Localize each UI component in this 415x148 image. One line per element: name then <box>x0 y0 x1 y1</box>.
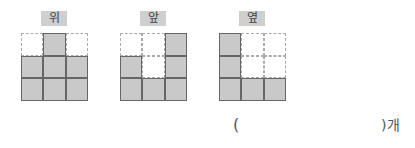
top-view-grid <box>21 33 88 101</box>
filled-cell <box>165 78 187 101</box>
empty-cell <box>66 33 88 56</box>
filled-cell <box>120 78 142 101</box>
empty-cell <box>120 33 142 56</box>
empty-cell <box>264 56 286 79</box>
filled-cell <box>43 56 65 79</box>
open-paren: ( <box>233 114 239 136</box>
side-view-grid <box>219 33 286 101</box>
filled-cell <box>21 56 43 79</box>
front-view-label: 앞 <box>140 11 166 26</box>
top-view-label: 위 <box>41 11 67 26</box>
filled-cell <box>219 78 241 101</box>
empty-cell <box>241 33 263 56</box>
unit-label: 개 <box>387 114 400 136</box>
filled-cell <box>264 78 286 101</box>
filled-cell <box>142 78 164 101</box>
filled-cell <box>43 33 65 56</box>
filled-cell <box>120 56 142 79</box>
filled-cell <box>241 78 263 101</box>
filled-cell <box>66 56 88 79</box>
empty-cell <box>264 33 286 56</box>
filled-cell <box>43 78 65 101</box>
filled-cell <box>219 56 241 79</box>
empty-cell <box>142 56 164 79</box>
empty-cell <box>21 33 43 56</box>
answer-blank[interactable]: ( ) 개 <box>233 114 408 136</box>
filled-cell <box>165 33 187 56</box>
side-view-label: 옆 <box>239 11 265 26</box>
empty-cell <box>241 56 263 79</box>
filled-cell <box>219 33 241 56</box>
empty-cell <box>142 33 164 56</box>
filled-cell <box>165 56 187 79</box>
filled-cell <box>21 78 43 101</box>
close-paren: ) <box>381 114 386 136</box>
filled-cell <box>66 78 88 101</box>
front-view-grid <box>120 33 187 101</box>
